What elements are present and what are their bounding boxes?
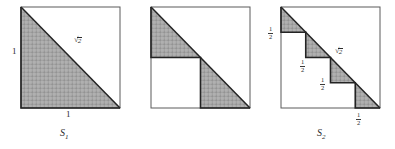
panel-s1: 1 1 √ 2 S1 — [0, 0, 130, 149]
staircase-figure: 1 1 √ 2 S1 — [0, 0, 395, 149]
panel-s2: 1 2 1 2 1 2 1 2 √ 2 — [130, 0, 260, 149]
left-side-length-label: 1 — [12, 47, 17, 56]
diagonal-line — [281, 7, 380, 108]
panel-s3-graphic — [260, 0, 395, 149]
panel-s3: 1 4 1 4 1 4 1 4 1 4 — [260, 0, 395, 149]
caption-index: 1 — [65, 133, 69, 141]
panel-s1-graphic — [0, 0, 130, 149]
radical-sign-glyph: √ — [74, 36, 78, 44]
panel-s2-graphic — [130, 0, 260, 149]
sqrt-radical: √ 2 — [74, 36, 82, 45]
panel-caption-s1: S1 — [60, 128, 69, 141]
bottom-side-length-label: 1 — [66, 110, 71, 119]
diagonal-length-label: √ 2 — [74, 36, 82, 45]
